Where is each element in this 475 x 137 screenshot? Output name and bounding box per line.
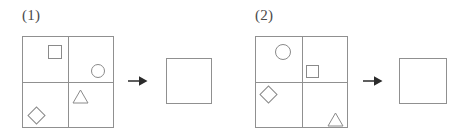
item-1-diamond-shape [27, 106, 45, 124]
item-2-square-shape [306, 65, 319, 78]
item-1-right-arrow-icon [128, 75, 148, 87]
item-2-four-quadrant-grid [255, 36, 348, 128]
item-1-circle-shape [91, 64, 105, 78]
grid-horizontal-divider [256, 82, 347, 83]
item-2-answer-box[interactable] [399, 58, 447, 104]
item-1-triangle-shape [72, 89, 89, 104]
item-2-right-arrow-icon [363, 75, 383, 87]
item-2-circle-shape [275, 44, 291, 60]
item-label-2: (2) [255, 8, 273, 23]
item-1-square-shape [48, 45, 62, 59]
item-1-answer-box[interactable] [166, 58, 212, 104]
grid-horizontal-divider [23, 82, 113, 83]
item-label-1: (1) [22, 8, 40, 23]
item-2-diamond-shape [259, 85, 277, 103]
puzzle-canvas: (1) (2) [0, 0, 475, 137]
item-1-four-quadrant-grid [22, 36, 114, 128]
item-2-triangle-shape [327, 112, 344, 127]
